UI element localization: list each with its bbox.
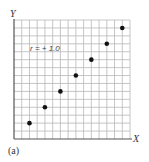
data-point xyxy=(74,73,79,78)
data-point xyxy=(105,42,110,47)
data-point xyxy=(89,57,94,62)
data-point xyxy=(58,89,63,94)
data-point xyxy=(120,26,125,31)
y-axis-label: Y xyxy=(10,8,17,19)
x-axis-label: X xyxy=(132,133,140,144)
data-point xyxy=(27,121,32,126)
data-point xyxy=(43,105,48,110)
grid-lines xyxy=(14,20,130,139)
scatter-plot: Y X r = + 1.0 xyxy=(0,0,149,162)
panel-label: (a) xyxy=(8,145,19,156)
correlation-annotation: r = + 1.0 xyxy=(30,44,60,53)
